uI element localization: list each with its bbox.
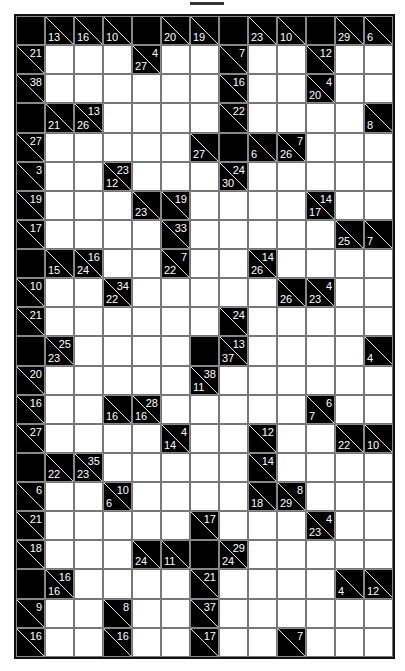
entry-cell[interactable] [161,628,190,657]
entry-cell[interactable] [335,45,364,74]
entry-cell[interactable] [306,628,335,657]
entry-cell[interactable] [248,395,277,424]
entry-cell[interactable] [248,540,277,569]
entry-cell[interactable] [132,453,161,482]
entry-cell[interactable] [364,540,393,569]
entry-cell[interactable] [103,453,132,482]
entry-cell[interactable] [45,220,74,249]
entry-cell[interactable] [161,482,190,511]
entry-cell[interactable] [45,191,74,220]
entry-cell[interactable] [306,162,335,191]
entry-cell[interactable] [45,307,74,336]
entry-cell[interactable] [277,162,306,191]
entry-cell[interactable] [277,191,306,220]
entry-cell[interactable] [132,249,161,278]
entry-cell[interactable] [277,45,306,74]
entry-cell[interactable] [219,424,248,453]
entry-cell[interactable] [277,424,306,453]
entry-cell[interactable] [364,482,393,511]
entry-cell[interactable] [74,336,103,365]
entry-cell[interactable] [364,191,393,220]
entry-cell[interactable] [74,162,103,191]
entry-cell[interactable] [277,395,306,424]
entry-cell[interactable] [248,191,277,220]
entry-cell[interactable] [132,482,161,511]
entry-cell[interactable] [74,366,103,395]
entry-cell[interactable] [248,366,277,395]
entry-cell[interactable] [132,162,161,191]
entry-cell[interactable] [364,453,393,482]
entry-cell[interactable] [45,395,74,424]
entry-cell[interactable] [103,307,132,336]
entry-cell[interactable] [132,366,161,395]
entry-cell[interactable] [335,249,364,278]
entry-cell[interactable] [248,220,277,249]
entry-cell[interactable] [219,395,248,424]
entry-cell[interactable] [248,628,277,657]
entry-cell[interactable] [335,366,364,395]
entry-cell[interactable] [219,220,248,249]
entry-cell[interactable] [161,45,190,74]
entry-cell[interactable] [335,336,364,365]
entry-cell[interactable] [190,74,219,103]
entry-cell[interactable] [103,336,132,365]
entry-cell[interactable] [74,424,103,453]
entry-cell[interactable] [306,424,335,453]
entry-cell[interactable] [306,220,335,249]
entry-cell[interactable] [364,74,393,103]
entry-cell[interactable] [335,162,364,191]
entry-cell[interactable] [335,628,364,657]
entry-cell[interactable] [306,249,335,278]
entry-cell[interactable] [103,45,132,74]
entry-cell[interactable] [219,569,248,598]
entry-cell[interactable] [103,424,132,453]
entry-cell[interactable] [74,511,103,540]
entry-cell[interactable] [74,278,103,307]
entry-cell[interactable] [190,191,219,220]
entry-cell[interactable] [161,133,190,162]
entry-cell[interactable] [364,45,393,74]
entry-cell[interactable] [103,191,132,220]
entry-cell[interactable] [190,482,219,511]
entry-cell[interactable] [277,249,306,278]
entry-cell[interactable] [132,628,161,657]
entry-cell[interactable] [306,599,335,628]
entry-cell[interactable] [277,540,306,569]
entry-cell[interactable] [190,249,219,278]
entry-cell[interactable] [248,103,277,132]
entry-cell[interactable] [248,307,277,336]
entry-cell[interactable] [364,366,393,395]
entry-cell[interactable] [335,307,364,336]
entry-cell[interactable] [132,133,161,162]
entry-cell[interactable] [161,511,190,540]
entry-cell[interactable] [364,628,393,657]
entry-cell[interactable] [219,278,248,307]
entry-cell[interactable] [45,628,74,657]
entry-cell[interactable] [190,103,219,132]
entry-cell[interactable] [161,569,190,598]
entry-cell[interactable] [161,307,190,336]
entry-cell[interactable] [74,540,103,569]
entry-cell[interactable] [364,599,393,628]
entry-cell[interactable] [45,424,74,453]
entry-cell[interactable] [45,540,74,569]
entry-cell[interactable] [161,162,190,191]
entry-cell[interactable] [306,103,335,132]
entry-cell[interactable] [45,366,74,395]
entry-cell[interactable] [248,74,277,103]
entry-cell[interactable] [335,395,364,424]
entry-cell[interactable] [306,482,335,511]
entry-cell[interactable] [306,336,335,365]
entry-cell[interactable] [364,162,393,191]
entry-cell[interactable] [74,599,103,628]
entry-cell[interactable] [364,133,393,162]
entry-cell[interactable] [45,162,74,191]
entry-cell[interactable] [306,133,335,162]
entry-cell[interactable] [74,191,103,220]
entry-cell[interactable] [74,482,103,511]
entry-cell[interactable] [219,249,248,278]
entry-cell[interactable] [45,74,74,103]
entry-cell[interactable] [103,74,132,103]
entry-cell[interactable] [103,569,132,598]
entry-cell[interactable] [219,628,248,657]
